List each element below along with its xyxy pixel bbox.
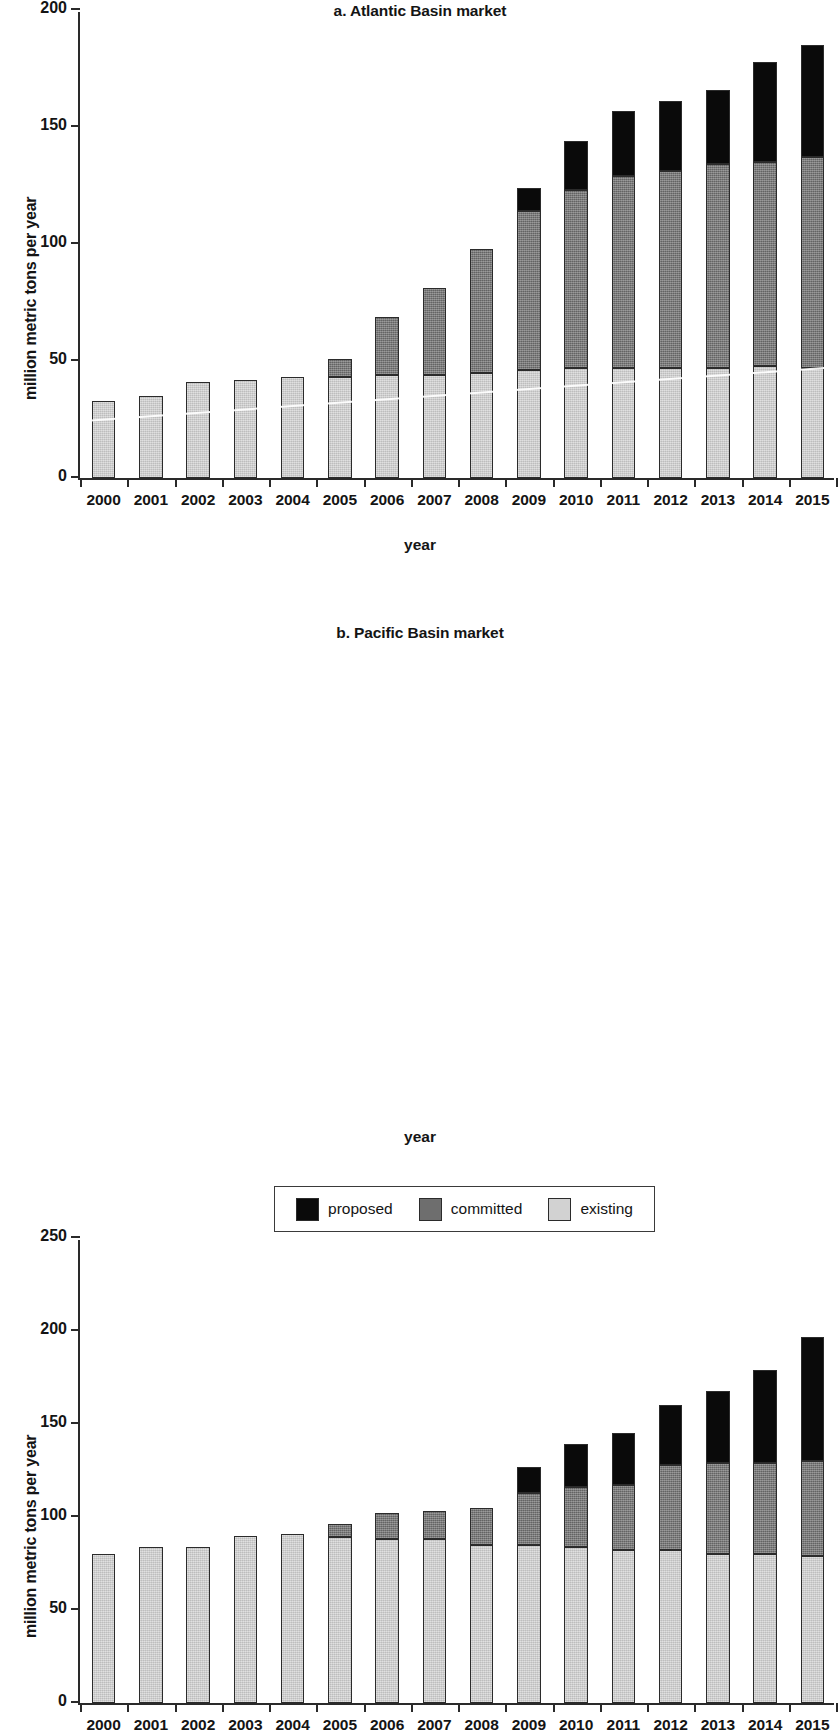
- bar-segment-committed[interactable]: [801, 157, 825, 368]
- bar-segment-committed[interactable]: [706, 1463, 730, 1554]
- bar-segment-existing[interactable]: [423, 375, 447, 478]
- bar-segment-existing[interactable]: [612, 1550, 636, 1703]
- bar-segment-proposed[interactable]: [612, 111, 636, 177]
- bar-segment-proposed[interactable]: [753, 62, 777, 163]
- bar-2006[interactable]: [375, 1240, 399, 1703]
- bar-segment-committed[interactable]: [659, 1465, 683, 1551]
- bar-segment-committed[interactable]: [753, 162, 777, 366]
- bar-segment-proposed[interactable]: [706, 1391, 730, 1464]
- bar-segment-proposed[interactable]: [517, 1467, 541, 1493]
- bar-2001[interactable]: [139, 1240, 163, 1703]
- bar-segment-committed[interactable]: [375, 317, 399, 376]
- bar-2009[interactable]: [517, 1240, 541, 1703]
- bar-segment-existing[interactable]: [753, 366, 777, 478]
- bar-segment-committed[interactable]: [753, 1463, 777, 1554]
- bar-2004[interactable]: [281, 12, 305, 478]
- bar-segment-existing[interactable]: [139, 396, 163, 478]
- bar-segment-existing[interactable]: [470, 1545, 494, 1703]
- bar-2005[interactable]: [328, 12, 352, 478]
- bar-2012[interactable]: [659, 12, 683, 478]
- bar-segment-existing[interactable]: [234, 1536, 258, 1703]
- bar-2010[interactable]: [564, 12, 588, 478]
- bar-segment-proposed[interactable]: [659, 101, 683, 171]
- bar-segment-committed[interactable]: [328, 1524, 352, 1537]
- bar-segment-committed[interactable]: [423, 288, 447, 375]
- bar-segment-existing[interactable]: [328, 377, 352, 478]
- bar-segment-committed[interactable]: [423, 1511, 447, 1539]
- bar-segment-existing[interactable]: [92, 401, 116, 478]
- bar-2000[interactable]: [92, 1240, 116, 1703]
- bar-segment-existing[interactable]: [375, 1539, 399, 1703]
- bar-segment-proposed[interactable]: [612, 1433, 636, 1485]
- bar-segment-proposed[interactable]: [564, 1444, 588, 1487]
- bar-2015[interactable]: [801, 1240, 825, 1703]
- bar-segment-committed[interactable]: [801, 1461, 825, 1556]
- bar-segment-existing[interactable]: [186, 382, 210, 478]
- bar-segment-existing[interactable]: [92, 1554, 116, 1703]
- bar-segment-committed[interactable]: [470, 249, 494, 373]
- bar-segment-existing[interactable]: [801, 368, 825, 478]
- bar-segment-committed[interactable]: [612, 1485, 636, 1550]
- bar-segment-existing[interactable]: [186, 1547, 210, 1703]
- bar-segment-existing[interactable]: [375, 375, 399, 478]
- bar-segment-committed[interactable]: [706, 164, 730, 368]
- bar-2011[interactable]: [612, 1240, 636, 1703]
- bar-2003[interactable]: [234, 12, 258, 478]
- bar-segment-existing[interactable]: [564, 368, 588, 478]
- bar-segment-proposed[interactable]: [517, 188, 541, 211]
- bar-segment-existing[interactable]: [234, 380, 258, 478]
- bar-2012[interactable]: [659, 1240, 683, 1703]
- bar-segment-committed[interactable]: [564, 190, 588, 368]
- bar-2009[interactable]: [517, 12, 541, 478]
- bar-2007[interactable]: [423, 12, 447, 478]
- bar-2007[interactable]: [423, 1240, 447, 1703]
- bar-2014[interactable]: [753, 1240, 777, 1703]
- bar-2002[interactable]: [186, 1240, 210, 1703]
- bar-segment-existing[interactable]: [281, 1534, 305, 1703]
- bar-2004[interactable]: [281, 1240, 305, 1703]
- bar-segment-proposed[interactable]: [564, 141, 588, 190]
- bar-segment-existing[interactable]: [470, 373, 494, 478]
- bar-segment-existing[interactable]: [612, 368, 636, 478]
- bar-2008[interactable]: [470, 1240, 494, 1703]
- bar-segment-committed[interactable]: [375, 1513, 399, 1539]
- bar-2001[interactable]: [139, 12, 163, 478]
- bar-segment-existing[interactable]: [423, 1539, 447, 1703]
- bar-2013[interactable]: [706, 1240, 730, 1703]
- legend-item-proposed[interactable]: proposed: [296, 1198, 393, 1221]
- bar-segment-existing[interactable]: [753, 1554, 777, 1703]
- bar-2003[interactable]: [234, 1240, 258, 1703]
- bar-segment-proposed[interactable]: [706, 90, 730, 165]
- bar-segment-existing[interactable]: [659, 368, 683, 478]
- bar-segment-committed[interactable]: [328, 359, 352, 378]
- bar-2008[interactable]: [470, 12, 494, 478]
- bar-segment-existing[interactable]: [139, 1547, 163, 1703]
- bar-2000[interactable]: [92, 12, 116, 478]
- bar-segment-existing[interactable]: [706, 1554, 730, 1703]
- bar-segment-proposed[interactable]: [801, 1337, 825, 1462]
- bar-segment-existing[interactable]: [281, 377, 305, 478]
- bar-segment-proposed[interactable]: [659, 1405, 683, 1465]
- bar-segment-existing[interactable]: [706, 368, 730, 478]
- bar-2010[interactable]: [564, 1240, 588, 1703]
- bar-segment-existing[interactable]: [328, 1537, 352, 1703]
- bar-segment-committed[interactable]: [517, 211, 541, 370]
- bar-2011[interactable]: [612, 12, 636, 478]
- bar-segment-existing[interactable]: [517, 370, 541, 478]
- bar-2006[interactable]: [375, 12, 399, 478]
- bar-segment-proposed[interactable]: [801, 45, 825, 157]
- bar-segment-existing[interactable]: [517, 1545, 541, 1703]
- bar-segment-existing[interactable]: [564, 1547, 588, 1703]
- bar-segment-committed[interactable]: [564, 1487, 588, 1547]
- bar-segment-proposed[interactable]: [753, 1370, 777, 1463]
- bar-segment-committed[interactable]: [659, 171, 683, 368]
- bar-segment-existing[interactable]: [801, 1556, 825, 1703]
- bar-2002[interactable]: [186, 12, 210, 478]
- legend-item-existing[interactable]: existing: [548, 1198, 633, 1221]
- bar-2013[interactable]: [706, 12, 730, 478]
- bar-2015[interactable]: [801, 12, 825, 478]
- bar-2014[interactable]: [753, 12, 777, 478]
- bar-segment-committed[interactable]: [470, 1508, 494, 1545]
- bar-2005[interactable]: [328, 1240, 352, 1703]
- bar-segment-committed[interactable]: [612, 176, 636, 368]
